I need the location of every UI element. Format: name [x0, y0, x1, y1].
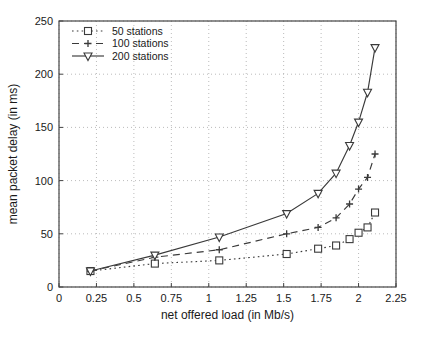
data-point-marker — [346, 142, 354, 150]
y-tick-label: 100 — [35, 175, 53, 187]
data-point-marker — [364, 224, 371, 231]
data-point-marker — [372, 209, 379, 216]
data-point-marker — [355, 119, 363, 127]
chart-canvas: 00.250.50.7511.251.51.7522.2505010015020… — [0, 0, 427, 339]
x-tick-label: 0.25 — [86, 292, 107, 304]
data-point-marker — [315, 224, 322, 231]
x-tick-label: 0.5 — [126, 292, 141, 304]
y-axis-label: mean packet delay (in ms) — [6, 84, 20, 225]
x-tick-label: 0 — [56, 292, 62, 304]
series-100-stations — [87, 151, 379, 275]
data-point-marker — [333, 242, 340, 249]
legend-label: 100 stations — [112, 37, 169, 49]
y-tick-label: 150 — [35, 121, 53, 133]
x-tick-label: 2 — [355, 292, 361, 304]
legend-label: 50 stations — [112, 25, 163, 37]
data-point-marker — [355, 229, 362, 236]
x-tick-label: 1.25 — [236, 292, 257, 304]
legend: 50 stations100 stations200 stations — [72, 25, 169, 62]
data-point-marker — [283, 251, 290, 258]
x-tick-label: 1 — [206, 292, 212, 304]
data-point-marker — [151, 260, 158, 267]
figure: 00.250.50.7511.251.51.7522.2505010015020… — [0, 0, 427, 339]
series-200-stations — [86, 45, 379, 276]
series-50-stations — [87, 209, 379, 275]
y-tick-label: 0 — [47, 281, 53, 293]
y-tick-label: 250 — [35, 15, 53, 27]
legend-marker-triangle-down — [84, 53, 92, 61]
data-point-marker — [314, 190, 322, 198]
x-tick-label: 1.5 — [276, 292, 291, 304]
data-point-marker — [283, 230, 290, 237]
y-tick-label: 50 — [41, 228, 53, 240]
y-tick-label: 200 — [35, 68, 53, 80]
data-point-marker — [346, 236, 353, 243]
x-tick-label: 1.75 — [310, 292, 331, 304]
data-point-marker — [372, 151, 379, 158]
data-point-marker — [216, 257, 223, 264]
legend-marker-plus — [85, 40, 92, 47]
data-point-marker — [216, 246, 223, 253]
x-tick-label: 2.25 — [385, 292, 406, 304]
legend-marker-square — [85, 28, 92, 35]
x-tick-label: 0.75 — [161, 292, 182, 304]
x-axis-label: net offered load (in Mb/s) — [161, 308, 294, 322]
data-point-marker — [371, 45, 379, 53]
legend-label: 200 stations — [112, 50, 169, 62]
series-line — [90, 48, 375, 271]
data-point-marker — [315, 245, 322, 252]
data-point-marker — [364, 89, 372, 97]
